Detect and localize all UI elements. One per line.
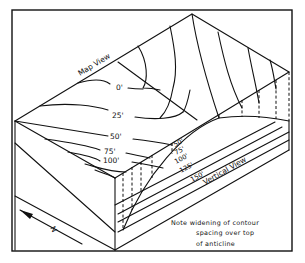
note-line-1: Note widening of contour: [171, 219, 259, 227]
outer-frame: [12, 10, 292, 251]
vertical-view-section: [115, 72, 289, 232]
contour-label-0: 0': [116, 83, 123, 92]
contour-label-25: 25': [112, 111, 124, 120]
block-diagram-figure: Map View 0' 25' 50' 75' 100' 50' 75' 100…: [0, 0, 305, 263]
arrowhead-icon: [20, 210, 33, 219]
contour-label-75: 75': [104, 147, 116, 156]
contour-label-100: 100': [103, 156, 119, 165]
note-text: Note widening of contour spacing over to…: [171, 219, 259, 248]
contour-label-50: 50': [110, 132, 122, 141]
vertical-view-label: Vertical View: [202, 155, 248, 187]
note-line-2: spacing over top: [196, 229, 254, 237]
note-line-3: of anticline: [196, 240, 235, 248]
